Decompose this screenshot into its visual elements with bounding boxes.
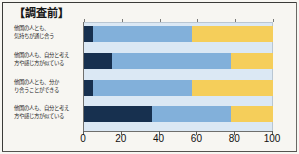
x-axis-minor-tick [122,19,123,22]
category-label-1-line1: 他国の人とも、 [14,25,82,33]
page-border-bottom [2,151,297,152]
x-axis-minor-tick [273,19,274,22]
x-axis-minor-tick [235,19,236,22]
x-axis-minor-tick [160,19,161,22]
bar-segment[interactable] [231,106,273,122]
bar-segment[interactable] [93,80,191,96]
bar-segment[interactable] [192,26,273,42]
category-label-3: 他国の人とも、分か り合うことができる [14,79,82,94]
bar-segment[interactable] [84,26,93,42]
chart-title: 【調査前】 [14,4,69,20]
page-border-right [296,2,297,152]
bar-segment[interactable] [192,80,273,96]
category-label-4-line2: 方や感じ方が似ている [14,113,82,121]
x-axis-minor-tick [84,19,85,22]
category-label-2-line2: 方や感じ方が似ている [14,60,82,68]
page-border-left [2,2,3,152]
category-label-3-line2: り合うことができる [14,87,82,95]
plot-area [83,22,273,131]
bar-segment[interactable] [84,80,93,96]
x-axis-tick-label: 80 [219,133,249,144]
x-axis-tick-label: 60 [181,133,211,144]
category-label-4-line1: 他国の人も、自分と考え [14,105,82,113]
chart-page: 【調査前】 他国の人とも、 気持ちが通じ合う 他国の人も、自分と考え 方や感じ方… [0,0,299,154]
x-axis-line [83,131,273,132]
bar-segment[interactable] [112,53,231,69]
category-label-1-line2: 気持ちが通じ合う [14,33,82,41]
page-border-top [2,2,297,3]
x-axis-tick-label: 40 [144,133,174,144]
x-axis-minor-tick [197,19,198,22]
category-label-2: 他国の人も、自分と考え 方や感じ方が似ている [14,52,82,67]
x-axis-tick-label: 0 [68,133,98,144]
x-axis-tick-label: 100 [257,133,287,144]
bar-segment[interactable] [84,106,152,122]
plot-top-rule [84,22,273,23]
bar-segment[interactable] [231,53,273,69]
bar-segment[interactable] [93,26,191,42]
bar-segment[interactable] [84,53,112,69]
bar-segment[interactable] [152,106,231,122]
x-axis-tick-label: 20 [106,133,136,144]
category-label-1: 他国の人とも、 気持ちが通じ合う [14,25,82,40]
category-label-4: 他国の人も、自分と考え 方や感じ方が似ている [14,105,82,120]
category-label-2-line1: 他国の人も、自分と考え [14,52,82,60]
category-label-3-line1: 他国の人とも、分か [14,79,82,87]
